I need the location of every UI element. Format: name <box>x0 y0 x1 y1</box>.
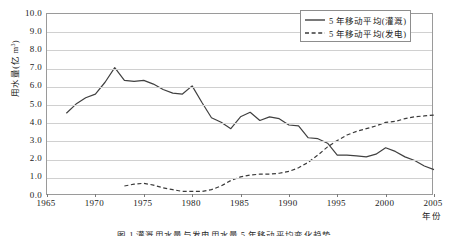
legend: 5 年移动平均(灌溉) 5 年移动平均(发电) <box>300 10 411 42</box>
legend-key-solid-icon <box>304 15 326 25</box>
gridline <box>47 87 432 88</box>
y-axis-tick-label: 7.0 <box>8 63 42 72</box>
legend-item-power: 5 年移动平均(发电) <box>304 26 406 39</box>
x-axis-tick-label: 1970 <box>74 198 114 208</box>
x-axis-tick-label: 1975 <box>123 198 163 208</box>
x-axis-tick-label: 2000 <box>365 198 405 208</box>
gridline <box>47 160 432 161</box>
legend-item-irrigation: 5 年移动平均(灌溉) <box>304 13 406 26</box>
y-axis-tick-label: 4.0 <box>8 118 42 127</box>
x-axis-tickmark <box>144 194 145 197</box>
x-axis-tick-label: 1990 <box>268 198 308 208</box>
gridline <box>47 69 432 70</box>
legend-key-dashed-icon <box>304 28 326 38</box>
x-axis-title: 年份 <box>422 209 441 221</box>
x-axis-tick-labels: 196519701975198019851990199520002005 <box>0 198 449 210</box>
gridline <box>47 123 432 124</box>
y-axis-tick-label: 8.0 <box>8 45 42 54</box>
x-axis-tick-label: 2005 <box>413 198 449 208</box>
y-axis-tick-label: 9.0 <box>8 27 42 36</box>
x-axis-tick-label: 1965 <box>26 198 66 208</box>
x-axis-tickmark <box>386 194 387 197</box>
legend-label-irrigation: 5 年移动平均(灌溉) <box>329 14 406 26</box>
y-axis-tick-label: 3.0 <box>8 136 42 145</box>
chart-figure: 用水量(亿 m3) 10.09.08.07.06.05.04.03.02.01.… <box>0 0 449 236</box>
x-axis-tick-label: 1980 <box>171 198 211 208</box>
x-axis-tickmark <box>95 194 96 197</box>
x-axis-tickmark <box>192 194 193 197</box>
series-line-power <box>124 115 434 191</box>
y-axis-tick-label: 2.0 <box>8 154 42 163</box>
x-axis-tick-label: 1985 <box>220 198 260 208</box>
y-axis-tick-label: 10.0 <box>8 9 42 18</box>
gridline <box>47 141 432 142</box>
gridline <box>47 178 432 179</box>
x-axis-tickmark <box>289 194 290 197</box>
x-axis-tickmark <box>337 194 338 197</box>
gridline <box>47 50 432 51</box>
y-axis-tick-label: 1.0 <box>8 172 42 181</box>
x-axis-tickmark <box>47 194 48 197</box>
y-axis-tick-label: 5.0 <box>8 100 42 109</box>
legend-label-power: 5 年移动平均(发电) <box>329 27 406 39</box>
x-axis-tickmark <box>434 194 435 197</box>
x-axis-tick-label: 1995 <box>316 198 356 208</box>
series-line-irrigation <box>66 68 434 170</box>
x-axis-tickmark <box>241 194 242 197</box>
gridline <box>47 105 432 106</box>
figure-caption: 图 1 灌溉用水量与发电用水量 5 年移动平均变化趋势 <box>0 228 449 236</box>
y-axis-tick-label: 6.0 <box>8 81 42 90</box>
